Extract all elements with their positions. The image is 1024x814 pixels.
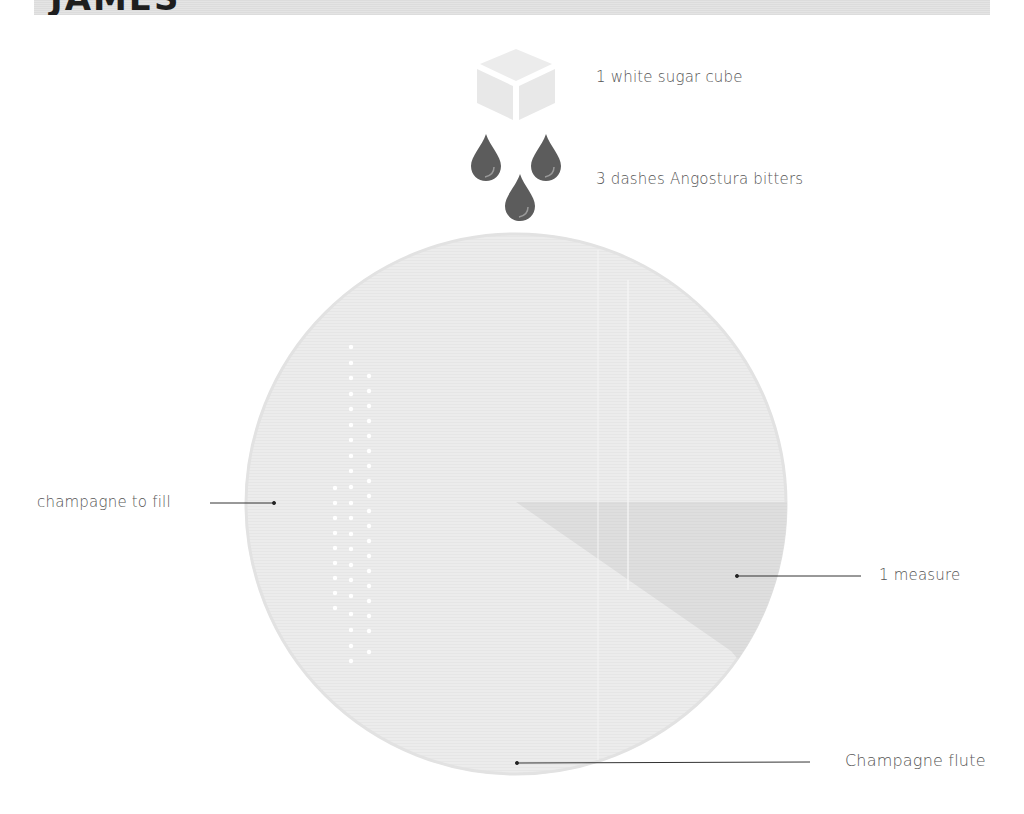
drops-icon [471, 134, 561, 221]
drop-icon [505, 174, 535, 221]
champagne-flute-glass [245, 233, 790, 775]
drop-icon [531, 134, 561, 181]
drop-icon [471, 134, 501, 181]
glass-label: Champagne flute [845, 751, 986, 770]
sugar-cube-icon [477, 49, 555, 120]
measure-label: 1 measure [879, 566, 961, 584]
champagne-label: champagne to fill [37, 493, 171, 511]
bitters-label: 3 dashes Angostura bitters [596, 170, 803, 188]
cocktail-diagram [0, 0, 1024, 814]
sugar-label: 1 white sugar cube [596, 68, 743, 86]
